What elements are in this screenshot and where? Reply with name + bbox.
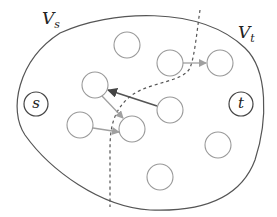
edge-arrow-n5-n4 bbox=[108, 90, 157, 106]
node-circle-n9 bbox=[147, 164, 173, 190]
node-circle-n6 bbox=[67, 112, 93, 138]
node-circle-n8 bbox=[205, 132, 231, 158]
edges-group bbox=[93, 63, 206, 132]
flow-network-diagram bbox=[0, 0, 277, 217]
node-circle-n7 bbox=[119, 116, 145, 142]
node-circle-n2 bbox=[157, 50, 183, 76]
edge-arrow-n6-n7 bbox=[93, 128, 119, 132]
node-circle-n3 bbox=[207, 50, 233, 76]
source-node-label: s bbox=[32, 94, 40, 112]
set-label-vt: Vt bbox=[238, 22, 255, 45]
node-circle-n5 bbox=[157, 97, 183, 123]
node-circle-n4 bbox=[82, 72, 108, 98]
nodes-group bbox=[67, 32, 233, 190]
special-nodes-group bbox=[24, 92, 253, 116]
set-label-vs: Vs bbox=[42, 8, 60, 31]
node-circle-n1 bbox=[114, 32, 140, 58]
sink-node-label: t bbox=[238, 94, 244, 112]
